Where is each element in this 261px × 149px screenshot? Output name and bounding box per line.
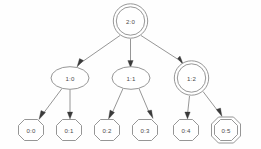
tree-diagram-svg: 2:0 1:0 1:1 1:2 0:0	[0, 0, 261, 149]
node-1-0[interactable]: 1:0	[51, 67, 89, 90]
node-0-2[interactable]: 0:2	[95, 120, 120, 141]
edge-1-2-to-0-4	[185, 96, 190, 119]
edge-1-1-to-0-2	[109, 89, 124, 120]
node-group: 2:0 1:0 1:1 1:2 0:0	[19, 4, 241, 143]
edge-2-0-to-1-1	[128, 39, 133, 68]
edge-1-0-to-0-0	[39, 89, 62, 120]
node-0-4-label: 0:4	[182, 127, 191, 134]
node-0-5-label: 0:5	[222, 127, 231, 134]
node-0-4[interactable]: 0:4	[174, 120, 199, 141]
edge-2-0-to-1-0	[77, 36, 120, 68]
node-1-0-label: 1:0	[66, 75, 75, 82]
edge-1-0-to-0-1	[67, 90, 72, 120]
node-2-0[interactable]: 2:0	[113, 4, 147, 38]
tree-diagram-canvas: 2:0 1:0 1:1 1:2 0:0	[0, 0, 261, 149]
node-0-0-label: 0:0	[27, 127, 36, 134]
node-0-1[interactable]: 0:1	[57, 120, 82, 141]
edge-1-1-to-0-3	[139, 89, 153, 119]
node-0-2-label: 0:2	[103, 127, 112, 134]
node-0-1-label: 0:1	[65, 127, 74, 134]
node-0-0[interactable]: 0:0	[19, 120, 44, 141]
edge-2-0-to-1-2	[141, 36, 184, 66]
node-0-3[interactable]: 0:3	[133, 120, 158, 141]
node-0-3-label: 0:3	[141, 127, 150, 134]
node-1-2-label: 1:2	[187, 75, 196, 82]
node-1-1-label: 1:1	[127, 75, 136, 82]
edge-1-2-to-0-5	[203, 92, 222, 117]
node-0-5[interactable]: 0:5	[212, 117, 241, 143]
node-1-2[interactable]: 1:2	[174, 61, 208, 95]
node-2-0-label: 2:0	[126, 18, 135, 25]
node-1-1[interactable]: 1:1	[112, 67, 150, 90]
